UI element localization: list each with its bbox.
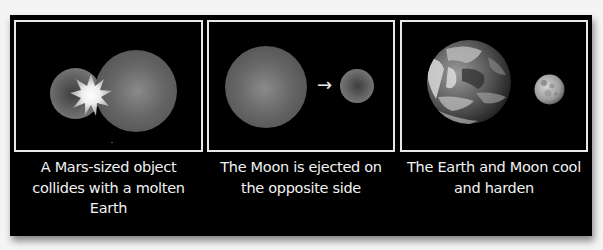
diagram-panel: A Mars-sized object collides with a molt… xyxy=(10,15,592,236)
frame-ejection: → xyxy=(207,20,395,152)
earth-sphere xyxy=(225,46,307,128)
caption-collision: A Mars-sized object collides with a molt… xyxy=(14,157,203,219)
ejection-arrow-icon: → xyxy=(317,76,332,94)
caption-line: The Moon is ejected on xyxy=(207,157,395,178)
caption-line: and harden xyxy=(400,178,588,199)
caption-ejection: The Moon is ejected on the opposite side xyxy=(207,157,395,198)
impact-starburst-icon xyxy=(68,72,114,118)
debris-dot xyxy=(111,142,113,143)
caption-line: Earth xyxy=(14,198,203,219)
caption-line: A Mars-sized object xyxy=(14,157,203,178)
caption-line: the opposite side xyxy=(207,178,395,199)
moon-globe-icon xyxy=(534,74,565,105)
earth-globe-icon xyxy=(426,39,512,125)
caption-line: collides with a molten xyxy=(14,178,203,199)
caption-cooled: The Earth and Moon cool and harden xyxy=(400,157,588,198)
frame-collision xyxy=(14,20,203,152)
frame-cooled xyxy=(400,20,588,152)
caption-line: The Earth and Moon cool xyxy=(400,157,588,178)
moon-sphere xyxy=(340,69,374,103)
